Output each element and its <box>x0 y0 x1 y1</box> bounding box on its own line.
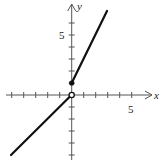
x-tick-label-5: 5 <box>128 103 134 115</box>
line-lower-piece <box>11 97 70 156</box>
x-axis-label: x <box>153 89 159 101</box>
line-upper-piece <box>72 11 107 83</box>
closed-endpoint <box>69 80 74 85</box>
y-tick-label-5: 5 <box>59 29 65 41</box>
open-endpoint <box>69 92 74 97</box>
piecewise-graph: x y 5 5 <box>0 0 166 166</box>
y-axis-label: y <box>76 0 82 12</box>
